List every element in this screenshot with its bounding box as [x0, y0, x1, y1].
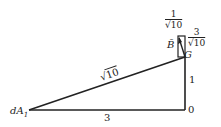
label-vertical-side: 1 [189, 75, 195, 85]
label-dA1: dA1 [10, 106, 28, 119]
arrow-head-icon [178, 37, 182, 44]
hypotenuse-line [29, 57, 185, 110]
label-g: G [184, 50, 192, 60]
triangle-diagram: dA1 0 G B̄ √10 3 1 1 √10 3 √10 [0, 0, 221, 127]
fraction-top: 1 √10 [165, 10, 182, 30]
label-origin: 0 [188, 105, 194, 115]
label-horizontal-side: 3 [104, 113, 110, 123]
fraction-right: 3 √10 [188, 28, 205, 48]
label-vector-b: B̄ [167, 40, 174, 50]
